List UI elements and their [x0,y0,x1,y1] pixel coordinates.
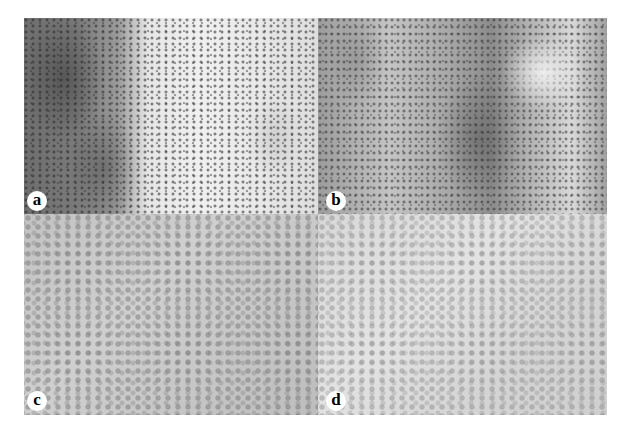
tissue-image-d [318,214,607,415]
panel-b: b [318,18,607,214]
panel-label-c: c [27,391,47,411]
panel-c: c [24,214,318,415]
micrograph-figure: a b c d [24,18,607,415]
tissue-image-c [24,214,318,415]
panel-label-a: a [27,191,47,211]
panel-label-b: b [326,191,346,211]
panel-d: d [318,214,607,415]
panel-label-d: d [326,391,346,411]
panel-a: a [24,18,318,214]
